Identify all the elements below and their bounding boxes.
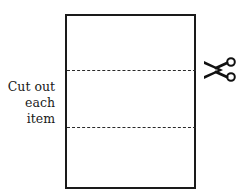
instruction-line-1: Cut out — [8, 79, 55, 95]
instruction-line-2: each — [8, 95, 55, 111]
instruction-label: Cut out each item — [8, 79, 55, 127]
cut-line-bottom — [67, 127, 196, 128]
scissors-icon — [203, 56, 237, 82]
instruction-line-3: item — [8, 111, 55, 127]
paper-card — [65, 14, 196, 189]
cut-line-top — [67, 70, 196, 71]
